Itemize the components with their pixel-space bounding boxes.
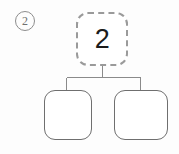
tree-node-root[interactable]: 2: [76, 12, 128, 66]
tree-node-root-label: 2: [95, 26, 110, 53]
tree-node-child-left[interactable]: [44, 90, 92, 140]
step-marker-label: 2: [22, 15, 28, 27]
step-marker-badge: 2: [15, 11, 35, 31]
tree-diagram: 2 2: [0, 0, 179, 154]
tree-node-child-right[interactable]: [114, 90, 168, 140]
